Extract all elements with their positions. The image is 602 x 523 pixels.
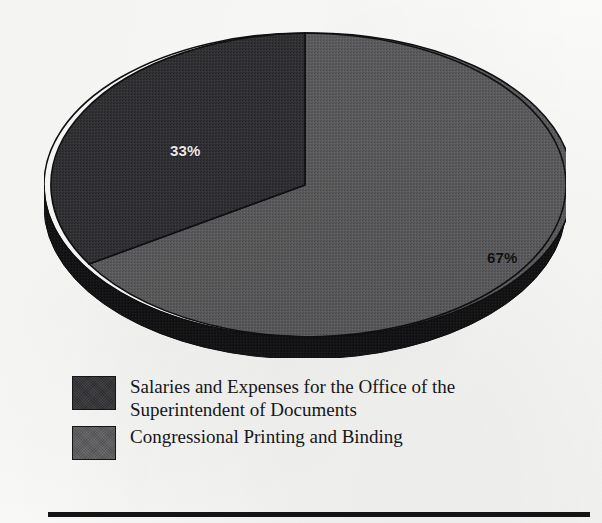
pie-chart-svg (44, 31, 566, 358)
legend-label-line-2: Superintendent of Documents (130, 398, 455, 421)
pie-chart: 33% 67% (44, 31, 566, 358)
legend-item-salaries-expenses: Salaries and Expenses for the Office of … (72, 375, 455, 421)
legend-label-salaries-expenses: Salaries and Expenses for the Office of … (130, 375, 455, 421)
legend-swatch-salaries-expenses (72, 376, 116, 410)
slice-label-33-percent: 33% (170, 142, 201, 159)
legend-label-line-1: Congressional Printing and Binding (130, 426, 403, 447)
legend-swatch-congressional-printing (72, 426, 116, 460)
slice-label-67-percent: 67% (487, 249, 518, 266)
legend-label-congressional-printing: Congressional Printing and Binding (130, 425, 403, 448)
bottom-horizontal-rule (48, 512, 590, 517)
legend-label-line-1: Salaries and Expenses for the Office of … (130, 376, 455, 397)
chart-page: 33% 67% Salaries and Expenses for the Of… (0, 0, 602, 523)
legend-item-congressional-printing: Congressional Printing and Binding (72, 425, 403, 460)
